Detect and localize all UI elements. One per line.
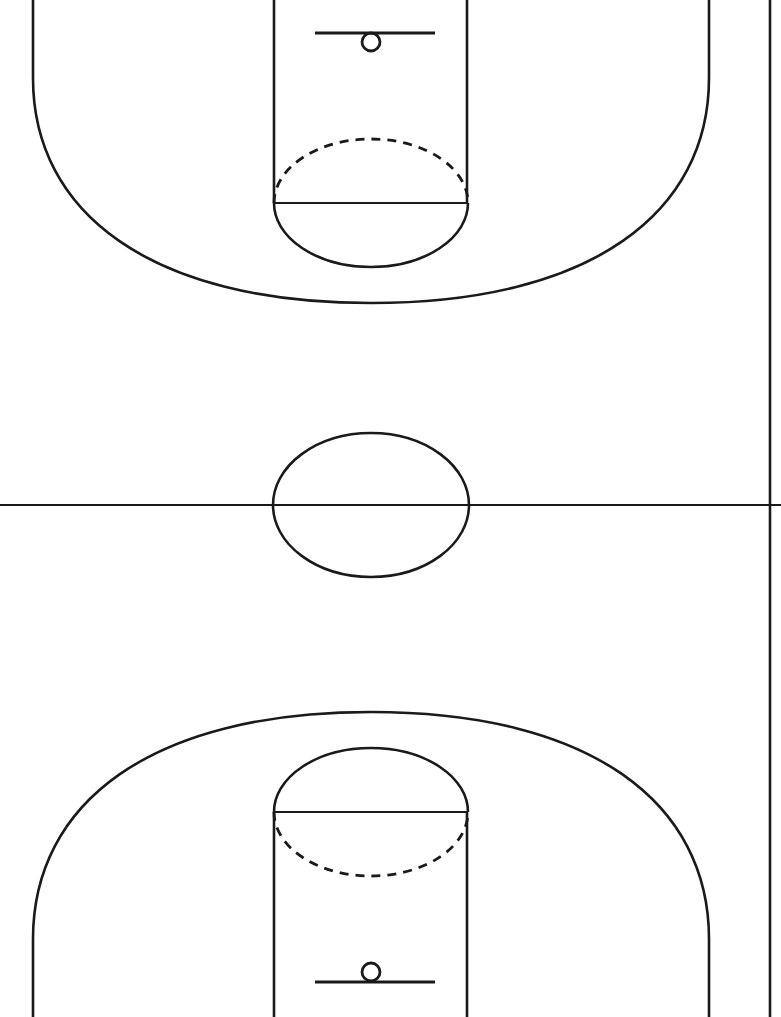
top-half-court-group — [33, 0, 709, 303]
free-throw-circle-dashed-top — [274, 139, 468, 203]
three-point-line-top — [33, 0, 709, 303]
hoop-rim-top — [362, 33, 380, 51]
free-throw-circle-solid-top — [274, 203, 468, 267]
hoop-rim-bottom — [362, 963, 380, 981]
three-point-line-bottom — [33, 712, 709, 1017]
center-court-group — [0, 433, 781, 577]
basketball-court-diagram — [0, 0, 781, 1017]
free-throw-circle-dashed-bottom — [274, 812, 468, 876]
bottom-half-court-group — [33, 712, 709, 1017]
free-throw-circle-solid-bottom — [274, 748, 468, 812]
court-svg-canvas — [0, 0, 781, 1017]
